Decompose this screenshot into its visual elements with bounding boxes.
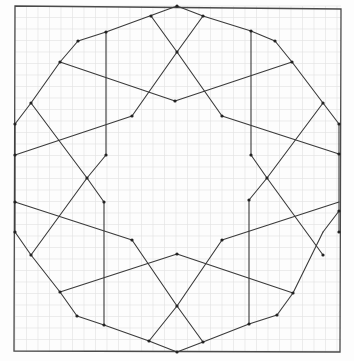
pattern-segment	[151, 16, 177, 52]
vertex-dot	[29, 253, 32, 256]
vertex-dot	[175, 252, 178, 255]
vertex-dot	[175, 4, 178, 7]
vertex-dot	[102, 200, 105, 203]
pattern-segment	[249, 178, 267, 200]
graph-paper-diagram	[0, 0, 354, 361]
vertex-dot	[75, 314, 78, 317]
star-pattern-drawing	[0, 0, 354, 361]
pattern-segment	[222, 116, 339, 154]
pattern-segment	[87, 155, 106, 178]
vertex-dot	[58, 290, 61, 293]
vertex-dot	[175, 50, 178, 53]
vertex-dot	[273, 39, 276, 42]
pattern-segment	[15, 232, 31, 255]
vertex-dot	[220, 114, 223, 117]
pattern-segment	[15, 116, 132, 155]
vertex-dots	[13, 4, 340, 353]
pattern-segment	[292, 62, 323, 103]
vertex-dot	[337, 122, 340, 125]
pattern-segment	[78, 32, 106, 41]
vertex-dot	[13, 230, 16, 233]
vertex-dot	[13, 153, 16, 156]
pattern-segment	[275, 41, 292, 62]
vertex-dot	[249, 29, 252, 32]
vertex-dot	[201, 340, 204, 343]
vertex-dot	[76, 39, 79, 42]
vertex-dot	[29, 101, 32, 104]
vertex-dot	[321, 101, 324, 104]
pattern-segment	[60, 62, 175, 101]
pattern-segment	[60, 41, 78, 62]
vertex-dot	[102, 323, 105, 326]
pattern-segment	[177, 254, 293, 293]
pattern-lines	[15, 6, 339, 352]
pattern-segment	[104, 325, 149, 341]
pattern-segment	[293, 232, 323, 293]
vertex-dot	[58, 60, 61, 63]
pattern-segment	[251, 155, 267, 178]
vertex-dot	[173, 99, 176, 102]
vertex-dot	[13, 200, 16, 203]
vertex-dot	[249, 153, 252, 156]
vertex-dot	[104, 153, 107, 156]
vertex-dot	[290, 60, 293, 63]
vertex-dot	[104, 30, 107, 33]
vertex-dot	[275, 313, 278, 316]
vertex-dot	[337, 230, 340, 233]
pattern-segment	[177, 240, 222, 306]
pattern-segment	[251, 31, 275, 41]
pattern-segment	[60, 292, 77, 316]
vertex-dot	[147, 339, 150, 342]
vertex-dot	[149, 14, 152, 17]
vertex-dot	[130, 238, 133, 241]
vertex-dot	[265, 176, 268, 179]
vertex-dot	[337, 209, 340, 212]
vertex-dot	[175, 304, 178, 307]
vertex-dot	[337, 152, 340, 155]
pattern-segment	[132, 240, 177, 306]
vertex-dot	[85, 176, 88, 179]
pattern-segment	[31, 62, 60, 103]
pattern-segment	[15, 202, 132, 240]
vertex-dot	[247, 198, 250, 201]
vertex-dot	[220, 238, 223, 241]
pattern-segment	[31, 255, 60, 292]
vertex-dot	[291, 291, 294, 294]
pattern-segment	[132, 52, 177, 116]
vertex-dot	[321, 253, 324, 256]
vertex-dot	[130, 114, 133, 117]
vertex-dot	[175, 350, 178, 353]
vertex-dot	[13, 122, 16, 125]
pattern-segment	[77, 316, 104, 325]
pattern-segment	[177, 52, 222, 116]
vertex-dot	[247, 322, 250, 325]
vertex-dot	[201, 14, 204, 17]
